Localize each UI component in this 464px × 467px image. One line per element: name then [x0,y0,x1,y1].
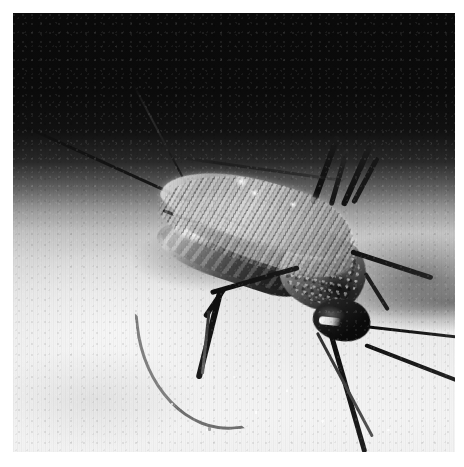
mosquito-photograph [13,13,455,452]
dust-speck [208,427,211,431]
page-root [0,0,464,467]
scanline-texture [13,13,455,452]
